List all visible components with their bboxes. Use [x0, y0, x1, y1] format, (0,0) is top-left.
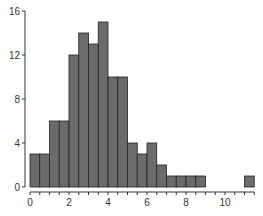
y-tick-label: 8	[14, 94, 20, 105]
y-tick-label: 4	[14, 138, 20, 149]
histogram-bar	[50, 121, 60, 187]
y-axis: 0481216	[9, 6, 25, 193]
histogram-bar	[98, 22, 108, 187]
histogram-bar	[196, 176, 206, 187]
x-tick-label: 10	[219, 197, 231, 208]
x-tick-label: 2	[66, 197, 72, 208]
histogram-bar	[128, 143, 138, 187]
histogram-bar	[79, 33, 89, 187]
histogram-bar	[167, 176, 177, 187]
histogram-bar	[186, 176, 196, 187]
y-tick-label: 12	[9, 50, 21, 61]
histogram-chart: 0481216 0246810	[0, 0, 263, 216]
histogram-bar	[40, 154, 50, 187]
y-tick-label: 16	[9, 6, 21, 17]
histogram-bar	[108, 77, 118, 187]
histogram-bar	[147, 143, 157, 187]
histogram-bar	[176, 176, 186, 187]
x-tick-label: 8	[183, 197, 189, 208]
histogram-bar	[118, 77, 128, 187]
y-tick-label: 0	[14, 182, 20, 193]
histogram-bar	[89, 44, 99, 187]
x-tick-label: 4	[105, 197, 111, 208]
histogram-bar	[157, 165, 167, 187]
histogram-bar	[30, 154, 40, 187]
x-axis: 0246810	[27, 192, 254, 208]
x-tick-label: 0	[27, 197, 33, 208]
histogram-bar	[59, 121, 69, 187]
histogram-bars	[30, 22, 254, 187]
histogram-bar	[137, 154, 147, 187]
histogram-bar	[69, 55, 79, 187]
histogram-bar	[245, 176, 255, 187]
x-tick-label: 6	[144, 197, 150, 208]
